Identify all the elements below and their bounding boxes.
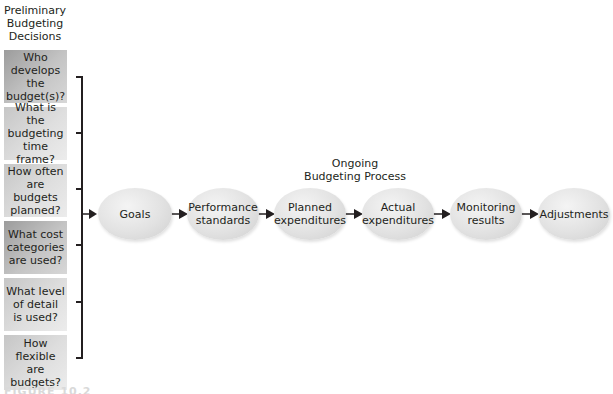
question-line: is used? [6,311,65,324]
question-line: are used? [7,254,65,267]
preliminary-decisions-heading: Preliminary Budgeting Decisions [2,4,68,43]
bracket-tick [76,76,82,78]
step-performance-standards: Performancestandards [187,188,259,240]
question-line: What is the [6,101,65,127]
question-line: time frame? [6,140,65,166]
question-line: are budgets [6,178,65,204]
step-monitoring-results: Monitoringresults [450,188,522,240]
figure-label: FIGURE 10.2 [4,386,92,394]
question-box-how-often: How oftenare budgetsplanned? [4,164,67,217]
step-label: Actual [362,201,434,214]
step-planned-expenditures: Plannedexpenditures [274,188,346,240]
bracket-tick [76,357,82,359]
step-label: Planned [274,201,346,214]
heading-line: Ongoing [300,157,410,170]
step-goals: Goals [98,188,172,240]
arrow-right-icon [170,208,188,220]
question-line: How flexible [6,337,65,363]
step-label: standards [188,214,258,227]
question-line: of detail [6,298,65,311]
question-line: planned? [6,204,65,217]
question-line: develops the [6,64,65,90]
question-line: budgeting [6,127,65,140]
heading-line: Preliminary [2,4,68,17]
question-box-who-develops: Whodevelops thebudget(s)? [4,50,67,103]
bracket-tick [76,188,82,190]
question-line: What level [6,285,65,298]
question-line: categories [7,241,65,254]
question-line: Who [6,51,65,64]
step-actual-expenditures: Actualexpenditures [362,188,434,240]
arrow-right-icon [521,208,539,220]
bracket-tick [76,301,82,303]
step-label: Monitoring [457,201,516,214]
heading-line: Decisions [2,30,68,43]
question-box-level-of-detail: What levelof detailis used? [4,278,67,331]
step-label: expenditures [274,214,346,227]
arrow-right-icon [257,208,275,220]
question-line: How often [6,165,65,178]
heading-line: Budgeting Process [300,170,410,183]
bracket-tick [76,244,82,246]
arrow-right-icon [433,208,451,220]
question-box-how-flexible: How flexibleare budgets? [4,335,67,390]
step-adjustments: Adjustments [538,188,610,240]
step-label: expenditures [362,214,434,227]
step-label: Adjustments [540,208,609,221]
bracket-tick [76,132,82,134]
step-label: Goals [120,208,151,221]
question-box-time-frame: What is thebudgetingtime frame? [4,107,67,160]
question-line: are budgets? [6,363,65,389]
heading-line: Budgeting [2,17,68,30]
arrow-right-icon [83,208,97,220]
question-line: What cost [7,228,65,241]
step-label: Performance [188,201,258,214]
question-box-cost-categories: What costcategoriesare used? [4,221,67,274]
arrow-right-icon [345,208,363,220]
step-label: results [457,214,516,227]
ongoing-process-heading: Ongoing Budgeting Process [300,157,410,183]
